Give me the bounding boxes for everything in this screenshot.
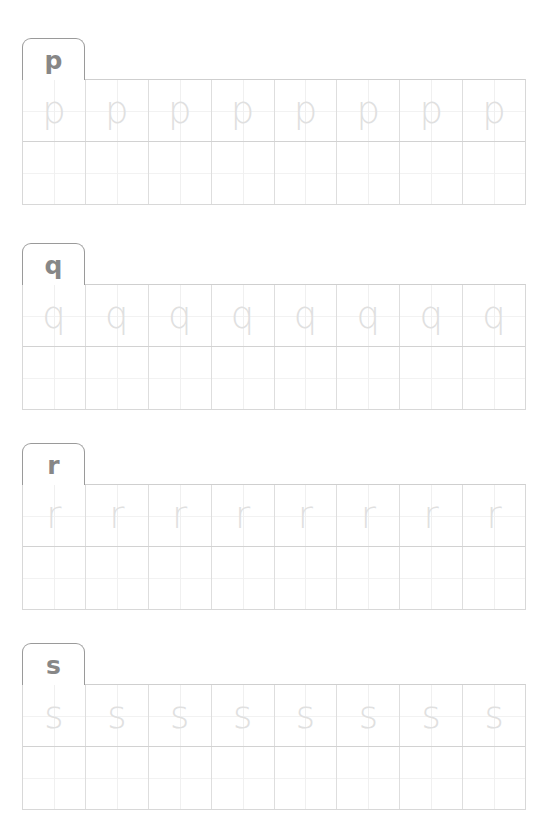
tracing-cell[interactable] [86,747,149,809]
tracing-cell[interactable] [400,142,463,204]
trace-letter-glyph: r [298,497,313,534]
letter-block-q: qqqqqqqqq [22,243,526,410]
tracing-cell[interactable] [23,142,86,204]
tracing-cell[interactable]: s [23,685,86,746]
block-tab-letter: q [45,253,63,278]
cell-midline-vertical [54,547,55,609]
cell-midline-vertical [180,747,181,809]
tracing-cell[interactable] [400,747,463,809]
tracing-cell[interactable]: q [212,285,275,346]
tracing-cell[interactable] [463,142,525,204]
tracing-cell[interactable]: r [275,485,338,546]
tracing-cell[interactable] [212,347,275,409]
cell-midline-vertical [494,747,495,809]
practice-row [23,347,525,409]
trace-row: rrrrrrrr [23,485,525,547]
tracing-cell[interactable]: p [149,80,212,141]
tracing-cell[interactable] [149,747,212,809]
trace-row: qqqqqqqq [23,285,525,347]
trace-letter-glyph: p [105,92,129,129]
tracing-cell[interactable] [275,547,338,609]
cell-midline-vertical [54,747,55,809]
tracing-cell[interactable] [86,347,149,409]
tracing-cell[interactable] [400,347,463,409]
tracing-cell[interactable]: s [463,685,525,746]
tracing-cell[interactable]: p [86,80,149,141]
tracing-cell[interactable]: s [400,685,463,746]
tracing-cell[interactable] [149,142,212,204]
trace-letter-glyph: s [44,697,63,734]
tracing-cell[interactable] [23,347,86,409]
tracing-cell[interactable] [86,142,149,204]
tracing-cell[interactable] [275,142,338,204]
tracing-cell[interactable]: s [337,685,400,746]
tracing-cell[interactable] [275,747,338,809]
tracing-cell[interactable]: r [212,485,275,546]
cell-midline-vertical [368,747,369,809]
tracing-cell[interactable]: p [400,80,463,141]
tracing-cell[interactable]: q [275,285,338,346]
tracing-cell[interactable]: q [463,285,525,346]
tracing-cell[interactable] [337,547,400,609]
tracing-cell[interactable]: p [337,80,400,141]
tracing-cell[interactable] [149,547,212,609]
letter-block-r: rrrrrrrrr [22,443,526,610]
block-tab-p[interactable]: p [22,38,85,80]
cell-midline-vertical [305,547,306,609]
trace-letter-glyph: q [231,297,255,334]
trace-letter-glyph: r [46,497,61,534]
cell-midline-vertical [117,547,118,609]
cell-midline-vertical [431,747,432,809]
tracing-cell[interactable] [149,347,212,409]
cell-midline-vertical [243,347,244,409]
tracing-cell[interactable]: r [463,485,525,546]
tracing-cell[interactable]: q [86,285,149,346]
tracing-cell[interactable]: q [23,285,86,346]
tracing-cell[interactable]: q [337,285,400,346]
cell-midline-vertical [54,142,55,204]
tracing-cell[interactable]: p [275,80,338,141]
block-tab-letter: r [47,453,59,478]
tracing-cell[interactable] [337,142,400,204]
tracing-cell[interactable] [337,347,400,409]
tracing-cell[interactable]: p [463,80,525,141]
tracing-cell[interactable]: r [86,485,149,546]
tracing-cell[interactable] [463,547,525,609]
tracing-cell[interactable]: s [149,685,212,746]
tracing-cell[interactable]: p [23,80,86,141]
tracing-cell[interactable]: r [337,485,400,546]
tracing-cell[interactable] [275,347,338,409]
tracing-cell[interactable] [337,747,400,809]
trace-letter-glyph: q [357,297,381,334]
tracing-cell[interactable] [212,547,275,609]
trace-letter-glyph: r [486,497,501,534]
tracing-cell[interactable] [86,547,149,609]
practice-row [23,547,525,609]
tracing-cell[interactable]: r [400,485,463,546]
tracing-cell[interactable] [23,547,86,609]
block-tab-letter: s [46,653,61,678]
tracing-cell[interactable] [463,347,525,409]
cell-midline-vertical [54,347,55,409]
tracing-cell[interactable]: q [149,285,212,346]
trace-letter-glyph: s [233,697,252,734]
tracing-cell[interactable] [23,747,86,809]
trace-letter-glyph: q [482,297,506,334]
tracing-grid-s: ssssssss [22,684,526,810]
tracing-cell[interactable]: r [149,485,212,546]
tracing-cell[interactable]: q [400,285,463,346]
tracing-cell[interactable]: s [212,685,275,746]
tracing-cell[interactable] [212,747,275,809]
tracing-cell[interactable]: r [23,485,86,546]
block-tab-s[interactable]: s [22,643,85,685]
tracing-cell[interactable]: s [275,685,338,746]
trace-letter-glyph: p [168,92,192,129]
block-tab-q[interactable]: q [22,243,85,285]
tracing-cell[interactable] [400,547,463,609]
tracing-cell[interactable]: s [86,685,149,746]
tracing-cell[interactable] [463,747,525,809]
tracing-cell[interactable]: p [212,80,275,141]
cell-midline-vertical [494,547,495,609]
tracing-cell[interactable] [212,142,275,204]
block-tab-r[interactable]: r [22,443,85,485]
